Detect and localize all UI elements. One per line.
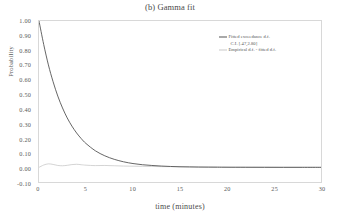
x-tick-label: 0 bbox=[36, 185, 39, 192]
y-tick-label: 0.80 bbox=[19, 46, 31, 53]
y-tick-label: 0.60 bbox=[19, 76, 31, 83]
x-tick-label: 25 bbox=[271, 185, 278, 192]
legend-label: Empirical d.f. - fitted d.f. bbox=[229, 47, 277, 53]
x-tick-label: 20 bbox=[224, 185, 231, 192]
y-tick-label: 0.90 bbox=[19, 31, 31, 38]
y-tick-label: 0.70 bbox=[19, 61, 31, 68]
y-tick-label: 0.30 bbox=[19, 120, 31, 127]
y-tick-label: 0.50 bbox=[19, 91, 31, 98]
legend-label: C.I. [.47,2.80] bbox=[229, 41, 258, 47]
y-tick-label: 0.10 bbox=[19, 150, 31, 157]
x-tick-label: 5 bbox=[84, 185, 87, 192]
legend-item: Fitted exceedance d.f. bbox=[219, 34, 321, 40]
x-tick-label: 15 bbox=[177, 185, 184, 192]
x-axis-title: time (minutes) bbox=[38, 202, 322, 211]
legend-item: Empirical d.f. - fitted d.f. bbox=[219, 47, 321, 53]
chart-figure: (b) Gamma fit Probability 1.000.900.800.… bbox=[0, 0, 340, 222]
legend-swatch-icon bbox=[219, 41, 227, 47]
y-tick-label: 0.40 bbox=[19, 105, 31, 112]
y-tick-label: 0.20 bbox=[19, 135, 31, 142]
y-axis-tick-labels: 1.000.900.800.700.600.500.400.300.200.10… bbox=[0, 20, 35, 183]
x-tick-label: 10 bbox=[129, 185, 136, 192]
x-tick-label: 30 bbox=[319, 185, 326, 192]
y-tick-label: 1.00 bbox=[19, 17, 31, 24]
x-axis-tick-labels: 051015202530 bbox=[38, 185, 322, 197]
legend-swatch-icon bbox=[219, 47, 227, 53]
legend-item: C.I. [.47,2.80] bbox=[219, 41, 321, 47]
legend-swatch-icon bbox=[219, 34, 227, 40]
y-tick-label: -0.10 bbox=[17, 180, 31, 187]
legend-label: Fitted exceedance d.f. bbox=[229, 34, 270, 40]
y-tick-label: 0.00 bbox=[19, 165, 31, 172]
chart-title: (b) Gamma fit bbox=[0, 2, 340, 12]
chart-legend: Fitted exceedance d.f.C.I. [.47,2.80]Emp… bbox=[219, 34, 321, 54]
